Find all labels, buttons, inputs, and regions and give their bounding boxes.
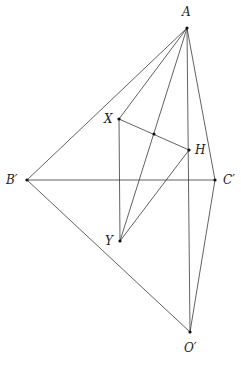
point-Cp <box>213 178 216 181</box>
point-M <box>152 132 155 135</box>
label-X: X <box>103 112 113 126</box>
label-Y: Y <box>105 234 114 248</box>
label-Op: O′ <box>184 341 197 355</box>
segment-Cp-Op <box>190 180 215 332</box>
segment-A-Cp <box>187 28 215 180</box>
point-Y <box>118 239 121 242</box>
label-Cp: C′ <box>223 173 235 187</box>
geometry-figure: A X H B′ C′ Y O′ <box>0 0 241 366</box>
point-X <box>117 117 120 120</box>
point-A <box>185 26 188 29</box>
point-H <box>187 148 190 151</box>
segment-Bp-Op <box>27 180 190 332</box>
point-Op <box>188 330 191 333</box>
point-Bp <box>25 178 28 181</box>
label-H: H <box>194 143 206 157</box>
segments <box>27 28 215 332</box>
segment-Y-H <box>120 150 189 241</box>
label-Bp: B′ <box>5 173 18 187</box>
segment-A-X <box>119 28 187 119</box>
label-A: A <box>181 5 191 19</box>
